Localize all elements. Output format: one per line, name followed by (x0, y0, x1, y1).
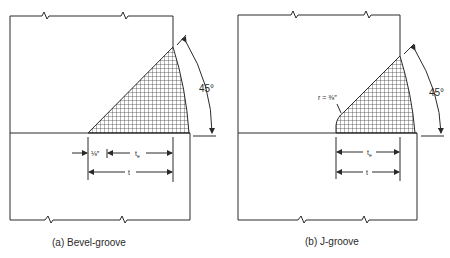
panel-j-groove: r = ⅜″ 45° te t (b) J-groove (238, 11, 444, 247)
t-label: t (366, 169, 368, 176)
weld-bevel-hatched (88, 47, 189, 133)
lower-plate-outline (10, 133, 190, 223)
radius-label: r = ⅜″ (318, 94, 337, 101)
t-label: t (128, 169, 130, 176)
caption-a: (a) Bevel-groove (52, 237, 126, 248)
lower-plate-outline (238, 133, 417, 223)
te-label: te (135, 150, 140, 159)
angle-ref-line (177, 35, 186, 45)
angle-label: 45° (199, 83, 214, 94)
caption-b: (b) J-groove (305, 236, 359, 247)
radius-leader (337, 104, 341, 113)
groove-weld-diagram: 45° ⅛″ te t (a) Bevel-groove r = ⅜″ 45° (0, 0, 450, 258)
angle-ref-line (404, 44, 414, 54)
panel-bevel-groove: 45° ⅛″ te t (a) Bevel-groove (10, 12, 216, 248)
weld-j-hatched (336, 56, 415, 133)
angle-label: 45° (429, 87, 444, 98)
root-gap-label: ⅛″ (91, 150, 100, 157)
te-label: te (367, 149, 372, 158)
